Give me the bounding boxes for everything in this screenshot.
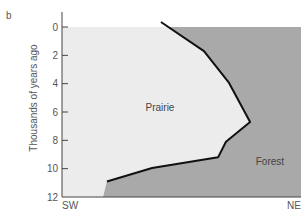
- y-tick-label: 4: [52, 78, 58, 89]
- y-axis-title: Thousands of years ago: [28, 44, 39, 152]
- y-tick-label: 10: [47, 163, 59, 174]
- forest-label: Forest: [256, 156, 285, 167]
- y-tick-label: 8: [52, 135, 58, 146]
- x-label-ne: NE: [287, 200, 301, 211]
- prairie-label: Prairie: [146, 102, 175, 113]
- y-tick-label: 2: [52, 50, 58, 61]
- x-label-sw: SW: [62, 200, 79, 211]
- y-tick-label: 0: [52, 22, 58, 33]
- y-tick-label: 6: [52, 107, 58, 118]
- y-tick-label: 12: [47, 192, 59, 203]
- chart: 024681012SWNEThousands of years agoPrair…: [0, 0, 306, 216]
